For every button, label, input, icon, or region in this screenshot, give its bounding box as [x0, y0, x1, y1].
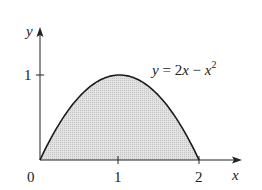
x-axis-label: x — [231, 167, 239, 183]
x-tick-label-0: 0 — [27, 169, 35, 185]
y-tick-label-1: 1 — [24, 67, 32, 83]
x-tick-label-1: 1 — [114, 169, 122, 185]
x-tick-label-2: 2 — [195, 169, 203, 185]
y-axis-label: y — [24, 23, 33, 39]
function-label: y = 2x − x2 — [150, 59, 216, 78]
chart: y x 1 0 1 2 y = 2x − x2 — [0, 0, 262, 190]
